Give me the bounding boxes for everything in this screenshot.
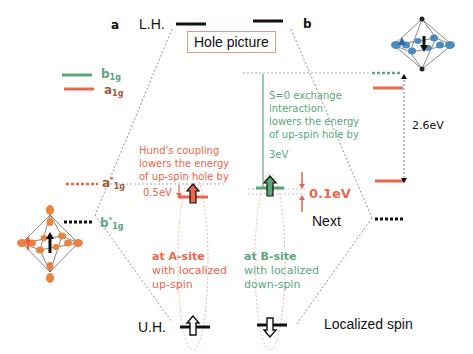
next-label: Next — [312, 213, 341, 229]
up-arrow-icon — [187, 184, 199, 203]
arrowhead-up — [401, 74, 407, 79]
orange-octahedron-icon — [17, 205, 83, 283]
diagram-canvas — [0, 0, 473, 354]
gap-2.6ev-label: 2.6eV — [412, 119, 444, 132]
lh-label: L.H. — [139, 16, 165, 32]
localized-spin-label: Localized spin — [324, 316, 413, 332]
panel-a-label: a — [111, 18, 119, 32]
legend-a1g-label: a1g — [104, 83, 123, 98]
b1g-star-label: b*1g — [100, 216, 124, 231]
hund-value: 0.5eV — [143, 186, 172, 199]
up-arrow-icon — [264, 176, 276, 196]
a-site-note: at A-site with localized up-spin — [152, 250, 227, 292]
uh-label: U.H. — [138, 319, 166, 335]
gap-0.1ev-label: 0.1eV — [309, 186, 351, 201]
blue-octahedron-icon — [391, 17, 455, 72]
hollow-down-arrow-icon — [264, 318, 276, 337]
hund-coupling-note: Hund's coupling lowers the energy of up-… — [139, 144, 229, 183]
legend-b1g-label: b1g — [101, 67, 121, 82]
exchange-value: 3eV — [269, 148, 288, 161]
panel-b-label: b — [303, 17, 312, 31]
b-site-note: at B-site with localized down-spin — [244, 250, 319, 292]
exchange-note: S=0 exchange interaction lowers the ener… — [269, 89, 359, 141]
a1g-star-label: a*1g — [102, 176, 125, 191]
hole-picture-title: Hole picture — [187, 31, 276, 53]
